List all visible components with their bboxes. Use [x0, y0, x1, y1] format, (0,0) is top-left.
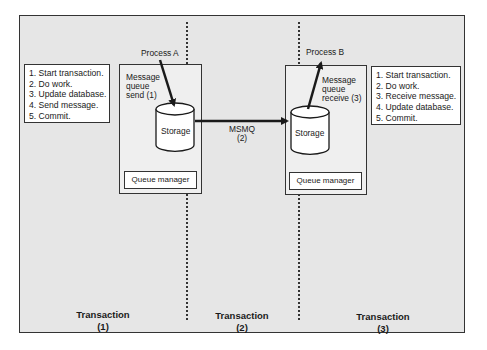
transaction-1-label: Transaction (1) [58, 309, 148, 333]
storage-right-label: Storage [295, 129, 324, 138]
transaction-3-label: Transaction (3) [338, 311, 428, 335]
connectors [0, 0, 487, 350]
transaction-2-label: Transaction (2) [197, 310, 287, 334]
storage-left-label: Storage [161, 127, 190, 136]
process-b-arrow [308, 63, 321, 109]
queue-manager-right: Queue manager [289, 172, 362, 190]
msmq-label: MSMQ (2) [229, 125, 255, 143]
process-a-arrow [160, 60, 174, 105]
queue-manager-left: Queue manager [124, 171, 197, 189]
